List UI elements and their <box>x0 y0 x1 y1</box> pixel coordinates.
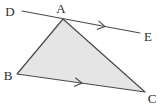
vertex-label-D: D <box>5 4 14 19</box>
geometry-diagram: DAEBC <box>0 0 161 104</box>
vertex-label-E: E <box>144 29 152 44</box>
geometry-figure: DAEBC <box>0 0 161 104</box>
vertex-label-B: B <box>4 68 13 83</box>
vertex-label-A: A <box>56 1 66 16</box>
vertex-label-C: C <box>148 91 157 104</box>
